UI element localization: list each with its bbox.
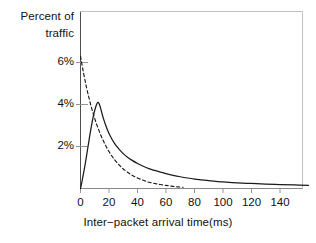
chart-figure: Percent of traffic Inter−packet arrival …: [0, 0, 316, 243]
y-tick-label-1: 4%: [40, 97, 74, 109]
y-tick-label-0: 2%: [40, 139, 74, 151]
y-tick-label-2: 6%: [40, 55, 74, 67]
x-tick-label-7: 140: [260, 196, 300, 208]
series-model-traffic: [81, 56, 184, 187]
plot-frame: [81, 12, 303, 189]
data-series: [81, 56, 309, 188]
series-measured-traffic: [81, 102, 309, 188]
